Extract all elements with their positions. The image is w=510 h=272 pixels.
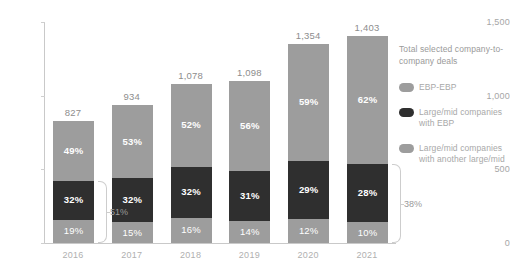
legend-item-label: EBP-EBP [419,82,457,94]
bar-segment-large-mid-with-large-mid[interactable]: 12% [288,219,329,243]
legend-item[interactable]: Large/mid companies with another large/m… [399,143,510,166]
bar-segment-ebp-ebp[interactable]: 59% [288,44,329,162]
bar-stack: 59%29%12% [288,44,329,243]
bar-group-2019[interactable]: 56%31%14% [220,22,278,243]
segment-percent-label: 14% [240,227,260,237]
segment-percent-label: 10% [358,228,378,238]
bar-group-2020[interactable]: 59%29%12% [279,22,337,243]
x-axis-tick-label: 2017 [103,250,161,260]
bar-segment-large-mid-with-large-mid[interactable]: 15% [112,222,153,243]
bar-segment-ebp-ebp[interactable]: 53% [112,105,153,178]
bracket-label: 51% [110,207,128,217]
segment-percent-label: 32% [122,195,142,205]
legend-item[interactable]: Large/mid companies with EBP [399,107,510,130]
segment-percent-label: 15% [122,228,142,238]
bracket-label: 38% [404,199,422,209]
bar-total-label: 1,403 [338,22,396,33]
segment-percent-label: 12% [299,226,319,236]
bar-segment-large-mid-with-large-mid[interactable]: 16% [171,218,212,243]
bar-total-label: 934 [103,91,161,102]
x-axis-tick-label: 2019 [220,250,278,260]
bar-segment-large-mid-with-ebp[interactable]: 28% [347,164,388,222]
legend-swatch-icon [399,144,414,153]
bar-segment-ebp-ebp[interactable]: 52% [171,84,212,167]
y-axis-tick-mark [41,169,45,170]
bar-group-2018[interactable]: 52%32%16% [162,22,220,243]
x-axis-tick-label: 2021 [338,250,396,260]
segment-percent-label: 53% [122,137,142,147]
y-axis-tick-label: 1,500 [472,17,510,27]
bar-total-label: 1,354 [279,30,337,41]
segment-percent-label: 62% [358,95,378,105]
y-axis-tick-label: 500 [472,164,510,174]
chart-legend: Total selected company-to-company deals … [399,44,510,179]
bar-segment-large-mid-with-ebp[interactable]: 32% [171,167,212,218]
legend-swatch-icon [399,83,414,92]
bar-segment-ebp-ebp[interactable]: 49% [53,121,94,181]
bracket-annotation [98,181,107,243]
bar-group-2016[interactable]: 49%32%19% [44,22,102,243]
bar-stack: 53%32%15% [112,105,153,243]
segment-percent-label: 31% [240,191,260,201]
legend-item-label: Large/mid companies with another large/m… [419,143,510,166]
bar-stack: 56%31%14% [229,81,270,243]
x-axis-tick-label: 2020 [279,250,337,260]
segment-percent-label: 28% [358,188,378,198]
bar-segment-ebp-ebp[interactable]: 62% [347,36,388,164]
bracket-annotation [392,164,401,243]
segment-percent-label: 32% [181,187,201,197]
y-axis-tick-mark [41,22,45,23]
stacked-bar-chart: 49%32%19%53%32%15%52%32%16%56%31%14%59%2… [0,0,510,272]
bar-segment-large-mid-with-large-mid[interactable]: 19% [53,220,94,243]
bar-segment-large-mid-with-ebp[interactable]: 31% [229,171,270,221]
segment-percent-label: 19% [64,226,84,236]
segment-percent-label: 52% [181,120,201,130]
segment-percent-label: 49% [64,146,84,156]
bar-stack: 52%32%16% [171,84,212,243]
y-axis-tick-label: 0 [472,238,510,248]
segment-percent-label: 16% [181,225,201,235]
segment-percent-label: 59% [299,97,319,107]
bar-segment-large-mid-with-ebp[interactable]: 29% [288,161,329,219]
segment-percent-label: 32% [64,195,84,205]
bar-total-label: 1,078 [162,70,220,81]
bar-group-2021[interactable]: 62%28%10% [338,22,396,243]
bar-segment-large-mid-with-large-mid[interactable]: 14% [229,221,270,243]
x-axis-tick-label: 2016 [44,250,102,260]
plot-area: 49%32%19%53%32%15%52%32%16%56%31%14%59%2… [44,22,396,243]
y-axis-tick-mark [41,96,45,97]
bar-segment-large-mid-with-ebp[interactable]: 32% [53,181,94,220]
segment-percent-label: 29% [299,185,319,195]
bar-segment-large-mid-with-large-mid[interactable]: 10% [347,222,388,243]
legend-title: Total selected company-to-company deals [399,44,507,67]
bar-stack: 49%32%19% [53,121,94,243]
bar-total-label: 827 [44,107,102,118]
y-axis-tick-mark [41,243,45,244]
x-axis-tick-label: 2018 [162,250,220,260]
bar-stack: 62%28%10% [347,36,388,243]
legend-item-label: Large/mid companies with EBP [419,107,510,130]
bar-segment-ebp-ebp[interactable]: 56% [229,81,270,171]
bar-total-label: 1,098 [220,67,278,78]
x-axis-line [44,243,396,244]
segment-percent-label: 56% [240,121,260,131]
legend-swatch-icon [399,108,414,117]
y-axis-tick-label: 1,000 [472,91,510,101]
